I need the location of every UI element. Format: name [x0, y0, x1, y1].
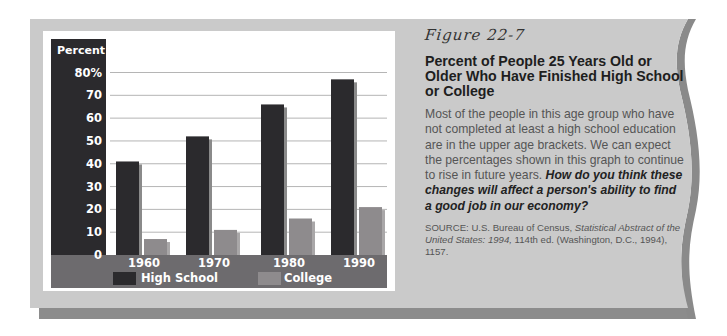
legend-label-high-school: High School: [141, 271, 218, 285]
bar-college-1960: [144, 239, 167, 255]
bar-high-school-1970: [186, 136, 209, 255]
figure-text-panel: Figure 22-7 Percent of People 25 Years O…: [425, 20, 685, 259]
y-tick-label-30: 30: [52, 181, 102, 193]
bar-shadow: [167, 242, 170, 255]
bar-shadow: [139, 164, 142, 255]
y-tick-label-70: 70: [52, 89, 102, 101]
bar-shadow: [284, 107, 287, 255]
bar-shadow: [209, 139, 212, 255]
bar-college-1970: [214, 230, 237, 255]
bar-shadow: [237, 233, 240, 255]
bar-shadow: [312, 222, 315, 256]
y-tick-label-80: 80%: [52, 67, 102, 79]
bar-high-school-1960: [116, 161, 139, 255]
bar-college-1990: [359, 207, 382, 255]
figure-label: Figure 22-7: [424, 26, 686, 44]
y-tick-label-10: 10: [52, 226, 102, 238]
y-axis-title: Percent: [53, 44, 105, 57]
figure-title: Percent of People 25 Years Old or Older …: [425, 54, 685, 99]
y-tick-label-50: 50: [52, 135, 102, 147]
legend-swatch-high-school: [113, 272, 136, 285]
legend-label-college: College: [284, 271, 332, 285]
x-tick-label-1980: 1980: [264, 256, 314, 270]
source-prefix: SOURCE: U.S. Bureau of Census,: [425, 222, 575, 233]
y-tick-label-40: 40: [52, 158, 102, 170]
bars: [116, 79, 385, 255]
figure-description: Most of the people in this age group who…: [425, 107, 685, 214]
y-tick-label-60: 60: [52, 112, 102, 124]
bar-shadow: [382, 210, 385, 255]
figure-source: SOURCE: U.S. Bureau of Census, Statistic…: [425, 222, 685, 259]
x-tick-label-1970: 1970: [189, 256, 239, 270]
x-tick-label-1960: 1960: [119, 256, 169, 270]
bar-high-school-1990: [331, 79, 354, 255]
x-tick-label-1990: 1990: [334, 256, 384, 270]
bar-shadow: [354, 82, 357, 255]
bar-college-1980: [289, 219, 312, 256]
y-tick-label-0: 0: [52, 249, 102, 261]
legend-swatch-college: [258, 272, 281, 285]
bar-high-school-1980: [261, 104, 284, 255]
y-tick-label-20: 20: [52, 203, 102, 215]
